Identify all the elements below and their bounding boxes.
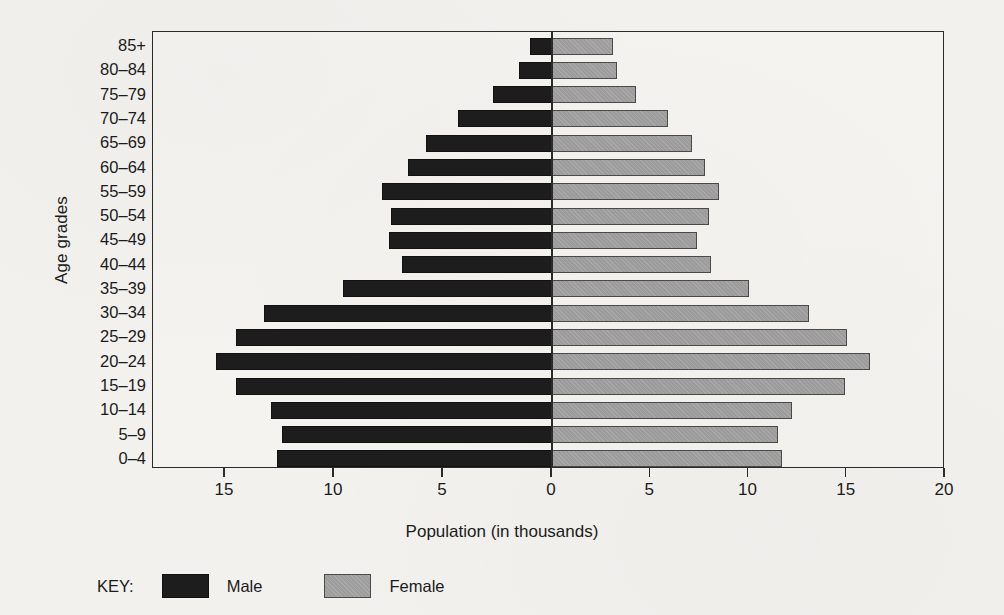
y-tick-label: 35–39: [40, 280, 146, 297]
bar-male: [519, 62, 552, 79]
bar-female: [552, 426, 778, 443]
bar-male: [271, 402, 552, 419]
bar-male: [493, 86, 552, 103]
y-tick-label: 55–59: [40, 183, 146, 200]
bar-group: [153, 86, 943, 103]
bar-male: [264, 305, 552, 322]
legend-label-male: Male: [227, 577, 263, 596]
y-tick-label: 65–69: [40, 134, 146, 151]
x-axis-tick-label: 0: [521, 480, 581, 500]
bar-female: [552, 450, 782, 467]
y-tick-label: 25–29: [40, 328, 146, 345]
bar-male: [343, 280, 552, 297]
bar-group: [153, 256, 943, 273]
population-pyramid-figure: Age grades 85+80–8475–7970–7465–6960–645…: [0, 0, 1004, 615]
bar-male: [236, 329, 552, 346]
x-axis-tick-label: 10: [718, 480, 778, 500]
y-tick-label: 40–44: [40, 256, 146, 273]
bar-male: [216, 353, 552, 370]
plot-area: [152, 31, 944, 468]
x-axis-tick-label: 20: [914, 480, 974, 500]
bar-group: [153, 110, 943, 127]
y-axis-tick-labels: 85+80–8475–7970–7465–6960–6455–5950–5445…: [40, 31, 146, 461]
y-tick-label: 10–14: [40, 401, 146, 418]
x-axis-tick: [223, 468, 224, 477]
bar-group: [153, 62, 943, 79]
bar-group: [153, 305, 943, 322]
bar-female: [552, 378, 845, 395]
bar-group: [153, 38, 943, 55]
chart-legend: KEY: Male Female: [97, 574, 445, 598]
bar-group: [153, 183, 943, 200]
bar-male: [408, 159, 552, 176]
x-axis-title: Population (in thousands): [0, 522, 1004, 542]
bar-female: [552, 232, 697, 249]
bar-male: [426, 135, 552, 152]
y-tick-label: 45–49: [40, 231, 146, 248]
y-tick-label: 80–84: [40, 61, 146, 78]
x-axis-tick: [943, 468, 944, 477]
y-tick-label: 70–74: [40, 110, 146, 127]
x-axis-tick-label: 15: [816, 480, 876, 500]
bar-female: [552, 329, 847, 346]
bar-male: [402, 256, 552, 273]
legend-title: KEY:: [97, 577, 134, 596]
legend-entry-female: Female: [324, 574, 444, 598]
x-axis-tick-label: 5: [412, 480, 472, 500]
y-tick-label: 85+: [40, 37, 146, 54]
y-tick-label: 20–24: [40, 353, 146, 370]
x-axis-tick-label: 5: [619, 480, 679, 500]
bar-male: [236, 378, 552, 395]
x-axis-tick-label: 10: [303, 480, 363, 500]
x-axis-tick: [747, 468, 748, 477]
y-tick-label: 75–79: [40, 86, 146, 103]
legend-swatch-male-icon: [162, 574, 209, 598]
bar-female: [552, 280, 749, 297]
y-tick-label: 15–19: [40, 377, 146, 394]
zero-axis-line: [551, 32, 553, 467]
bar-female: [552, 86, 636, 103]
bar-group: [153, 426, 943, 443]
x-axis-tick-label: 15: [194, 480, 254, 500]
bar-group: [153, 135, 943, 152]
bar-female: [552, 183, 719, 200]
x-axis-tick: [845, 468, 846, 477]
bar-female: [552, 62, 617, 79]
bar-group: [153, 450, 943, 467]
bar-female: [552, 305, 809, 322]
x-axis-tick: [441, 468, 442, 477]
x-axis-tick: [649, 468, 650, 477]
bar-group: [153, 353, 943, 370]
bar-group: [153, 378, 943, 395]
bar-female: [552, 402, 792, 419]
bar-male: [382, 183, 552, 200]
bar-group: [153, 402, 943, 419]
y-tick-label: 0–4: [40, 450, 146, 467]
bar-male: [391, 208, 552, 225]
bar-female: [552, 208, 709, 225]
bar-male: [282, 426, 552, 443]
bar-female: [552, 353, 870, 370]
bar-female: [552, 256, 711, 273]
bar-group: [153, 159, 943, 176]
bar-male: [530, 38, 552, 55]
bar-female: [552, 159, 705, 176]
y-tick-label: 50–54: [40, 207, 146, 224]
bar-group: [153, 232, 943, 249]
legend-label-female: Female: [389, 577, 444, 596]
bars-container: [153, 32, 943, 467]
bar-male: [458, 110, 552, 127]
bar-group: [153, 280, 943, 297]
legend-entry-male: Male: [162, 574, 263, 598]
y-tick-label: 60–64: [40, 159, 146, 176]
x-axis-tick: [332, 468, 333, 477]
y-tick-label: 5–9: [40, 426, 146, 443]
bar-female: [552, 110, 668, 127]
bar-male: [389, 232, 553, 249]
bar-group: [153, 208, 943, 225]
y-tick-label: 30–34: [40, 304, 146, 321]
bar-female: [552, 135, 692, 152]
bar-female: [552, 38, 613, 55]
bar-group: [153, 329, 943, 346]
x-axis-tick: [550, 468, 551, 477]
